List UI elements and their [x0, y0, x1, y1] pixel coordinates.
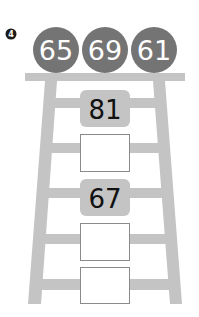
box-value: 81 — [88, 95, 121, 125]
number-circles: 65 69 61 — [33, 27, 177, 73]
circle-value: 65 — [39, 35, 73, 66]
ladder-puzzle: 4 65 69 61 81 — [0, 0, 199, 317]
circle-2: 69 — [82, 27, 128, 73]
empty-box-1[interactable] — [81, 135, 130, 172]
empty-box-3[interactable] — [81, 268, 130, 304]
ladder-shelf — [25, 73, 185, 81]
circle-value: 69 — [88, 35, 122, 66]
answer-boxes: 81 67 — [80, 90, 130, 304]
circle-value: 61 — [137, 35, 171, 66]
circle-1: 65 — [33, 27, 79, 73]
filled-box-1: 81 — [80, 90, 130, 127]
problem-number: 4 — [8, 30, 14, 39]
problem-number-badge: 4 — [6, 29, 17, 40]
empty-box-2[interactable] — [81, 224, 130, 261]
circle-3: 61 — [131, 27, 177, 73]
filled-box-2: 67 — [80, 179, 130, 216]
box-value: 67 — [88, 184, 121, 214]
